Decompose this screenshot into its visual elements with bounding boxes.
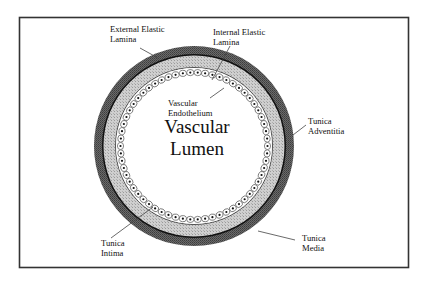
label-tunica-media-1: Tunica — [302, 233, 326, 243]
label-internal-elastic-lamina-1: Internal Elastic — [213, 27, 265, 37]
label-internal-elastic-lamina-2: Lamina — [213, 37, 239, 47]
vessel-diagram: Vascular Lumen External Elastic Lamina I… — [0, 0, 426, 282]
label-tunica-adventitia-2: Adventitia — [308, 126, 344, 136]
label-vascular-endothelium-1: Vascular — [168, 98, 198, 108]
label-tunica-adventitia-1: Tunica — [308, 116, 332, 126]
label-tunica-media-2: Media — [302, 243, 324, 253]
lumen-label-line1: Vascular — [164, 116, 230, 137]
label-external-elastic-lamina-1: External Elastic — [110, 24, 165, 34]
lumen-label-line2: Lumen — [170, 138, 224, 159]
label-vascular-endothelium-2: Endothelium — [168, 108, 213, 118]
label-tunica-intima-1: Tunica — [101, 238, 125, 248]
label-tunica-intima-2: Intima — [101, 248, 124, 258]
label-external-elastic-lamina-2: Lamina — [110, 34, 136, 44]
